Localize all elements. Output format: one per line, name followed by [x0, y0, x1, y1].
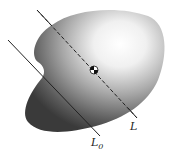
- label-L: L: [129, 120, 137, 133]
- label-L0-main: L: [90, 136, 98, 149]
- label-L0-subscript: 0: [98, 142, 103, 151]
- diagram: L L0: [0, 0, 175, 154]
- label-L0: L0: [90, 136, 103, 151]
- center-of-mass-icon: [90, 66, 98, 74]
- axis-line-L-outside-top: [37, 10, 52, 26]
